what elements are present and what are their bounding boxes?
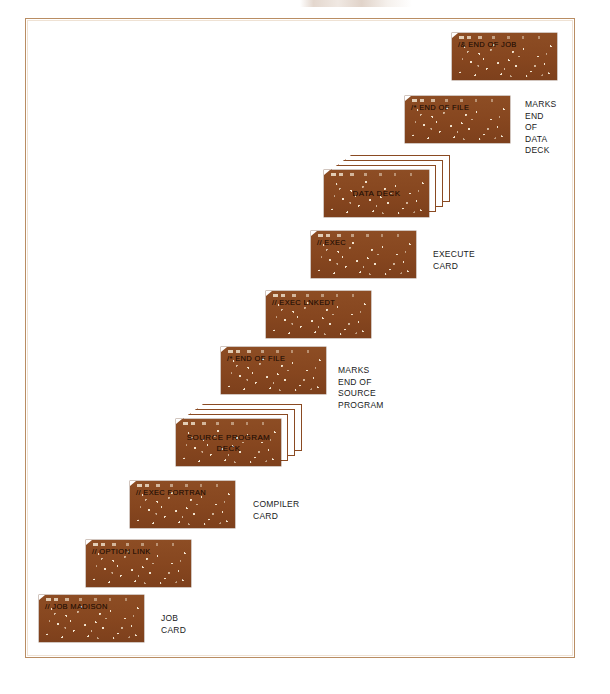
card-punch-text-end-of-file-source: /* END OF FILE [227,354,285,363]
card-punch-holes-data-deck [324,170,429,217]
card-index-marks-exec-fortran [137,484,231,487]
punch-card-end-of-file-data[interactable]: /* END OF FILE [405,96,510,143]
card-punch-text-option-link: // OPTION LINK [92,547,151,556]
card-index-marks-end-of-job [459,36,553,39]
punch-card-exec-fortran[interactable]: // EXEC FORTRAN [130,481,235,528]
annotation-end-of-file-data: MARKS END OF DATA DECK [525,99,556,157]
annotation-exec: EXECUTE CARD [433,249,475,272]
card-caption-data-deck: DATA DECK [324,170,429,217]
card-punch-holes-source-program-deck [176,419,281,466]
annotation-job-madison: JOB CARD [161,613,186,636]
diagram-page: /& END OF JOB/* END OF FILEMARKS END OF … [0,0,610,694]
punch-card-end-of-file-source[interactable]: /* END OF FILE [221,347,326,394]
card-index-marks-option-link [93,543,187,546]
card-index-marks-exec [318,234,412,237]
card-caption-source-program-deck: SOURCE PROGRAMDECK [176,419,281,466]
punch-card-data-deck[interactable]: DATA DECK [324,170,429,217]
punch-card-job-madison[interactable]: // JOB MADISON [39,595,144,642]
card-index-marks-job-madison [46,598,140,601]
card-punch-text-job-madison: // JOB MADISON [45,602,108,611]
annotation-exec-fortran: COMPILER CARD [253,499,299,522]
card-index-marks-end-of-file-source [228,350,322,353]
card-index-marks-exec-lnkedt [273,294,367,297]
card-index-marks-data-deck [331,173,425,176]
punch-card-end-of-job[interactable]: /& END OF JOB [452,33,557,80]
card-punch-text-end-of-job: /& END OF JOB [458,40,517,49]
card-punch-text-exec: // EXEC [317,238,346,247]
card-index-marks-source-program-deck [183,422,277,425]
punch-card-exec-lnkedt[interactable]: // EXEC LNKEDT [266,291,371,338]
card-punch-text-end-of-file-data: /* END OF FILE [411,103,469,112]
annotation-end-of-file-source: MARKS END OF SOURCE PROGRAM [338,365,384,411]
card-punch-text-exec-fortran: // EXEC FORTRAN [136,488,206,497]
scan-artifact [300,0,412,7]
punch-card-option-link[interactable]: // OPTION LINK [86,540,191,587]
card-punch-text-exec-lnkedt: // EXEC LNKEDT [272,298,335,307]
punch-card-source-program-deck[interactable]: SOURCE PROGRAMDECK [176,419,281,466]
card-index-marks-end-of-file-data [412,99,506,102]
punch-card-exec[interactable]: // EXEC [311,231,416,278]
